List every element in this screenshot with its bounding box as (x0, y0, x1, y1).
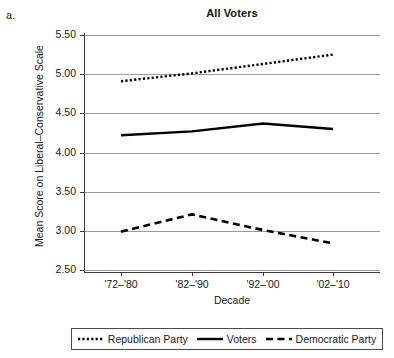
x-tick-label: '82–'90 (157, 278, 227, 290)
y-tick-label: 2.50 (34, 263, 76, 275)
gridline (84, 270, 380, 271)
y-tick-mark (80, 153, 84, 154)
panel-letter: a. (6, 9, 15, 21)
x-tick-label: '02–'10 (298, 278, 368, 290)
legend-label: Democratic Party (296, 333, 377, 345)
chart-legend: Republican PartyVotersDemocratic Party (71, 328, 383, 350)
x-tick-mark (121, 272, 122, 276)
gridline (84, 74, 380, 75)
x-axis-title: Decade (84, 294, 380, 306)
chart-title: All Voters (84, 7, 380, 19)
y-tick-mark (80, 74, 84, 75)
gridline (84, 231, 380, 232)
x-tick-label: '72–'80 (86, 278, 156, 290)
figure-all-voters: a. All Voters 2.503.003.504.004.505.005.… (0, 0, 394, 358)
legend-swatch-dashed-icon (266, 334, 292, 344)
legend-item-republican-party: Republican Party (78, 333, 188, 345)
legend-label: Voters (227, 333, 257, 345)
legend-label: Republican Party (108, 333, 188, 345)
y-tick-mark (80, 192, 84, 193)
gridline (84, 113, 380, 114)
x-axis-line (84, 272, 380, 273)
x-tick-label: '92–'00 (228, 278, 298, 290)
legend-item-democratic-party: Democratic Party (266, 333, 377, 345)
x-tick-mark (263, 272, 264, 276)
x-tick-mark (192, 272, 193, 276)
y-tick-mark (80, 35, 84, 36)
y-tick-mark (80, 113, 84, 114)
y-axis-title: Mean Score on Liberal–Conservative Scale (33, 31, 45, 261)
gridline (84, 153, 380, 154)
plot-area (84, 35, 380, 271)
legend-swatch-dotted-icon (78, 334, 104, 344)
x-tick-mark (333, 272, 334, 276)
y-tick-mark (80, 231, 84, 232)
y-tick-mark (80, 270, 84, 271)
y-axis-line (84, 33, 85, 273)
legend-item-voters: Voters (197, 333, 257, 345)
gridline (84, 192, 380, 193)
gridline (84, 35, 380, 36)
legend-swatch-solid-icon (197, 334, 223, 344)
